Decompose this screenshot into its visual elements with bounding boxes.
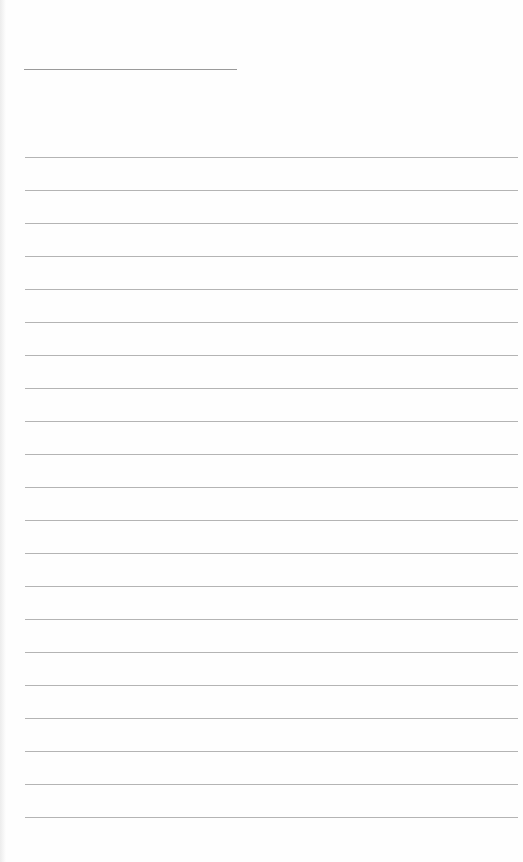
ruled-line xyxy=(25,355,518,356)
ruled-line xyxy=(25,685,518,686)
page-edge-shadow xyxy=(0,0,6,862)
ruled-line xyxy=(25,289,518,290)
ruled-line xyxy=(25,421,518,422)
ruled-line xyxy=(25,718,518,719)
ruled-line xyxy=(25,619,518,620)
ruled-line xyxy=(25,751,518,752)
ruled-line xyxy=(25,388,518,389)
ruled-line xyxy=(25,190,518,191)
ruled-line xyxy=(25,322,518,323)
ruled-line xyxy=(25,784,518,785)
ruled-line xyxy=(25,652,518,653)
ruled-line xyxy=(25,520,518,521)
ruled-line xyxy=(25,454,518,455)
ruled-line xyxy=(25,256,518,257)
ruled-line xyxy=(25,586,518,587)
ruled-line xyxy=(25,157,518,158)
ruled-line xyxy=(25,553,518,554)
ruled-line xyxy=(25,223,518,224)
title-line xyxy=(24,69,237,70)
ruled-line xyxy=(25,487,518,488)
lined-paper-page xyxy=(0,0,523,862)
ruled-line xyxy=(25,817,518,818)
